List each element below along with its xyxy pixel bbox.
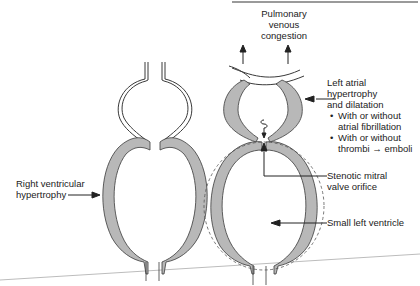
small-lv-label: Small left ventricle	[327, 217, 404, 228]
label-line: congestion	[244, 30, 324, 41]
bullet-line: With or without	[338, 110, 412, 121]
bullet-line: atrial fibrillation	[338, 121, 412, 132]
label-line: hypertrophy	[16, 189, 85, 200]
mitral-stenosis-diagram: Pulmonary venous congestion Left atrial …	[0, 0, 420, 286]
label-line: and dilatation	[327, 99, 384, 110]
label-line: valve orifice	[327, 181, 387, 192]
label-line: Stenotic mitral	[327, 170, 387, 181]
stenotic-mitral-label: Stenotic mitral valve orifice	[327, 170, 387, 192]
label-line: venous	[244, 19, 324, 30]
right-atrium	[118, 62, 192, 142]
small-lv-pointer	[271, 220, 327, 226]
rv-hypertrophy-label: Right ventricular hypertrophy	[16, 178, 85, 200]
label-line: Left atrial	[327, 77, 384, 88]
left-atrial-label: Left atrial hypertrophy and dilatation	[327, 77, 384, 110]
mitral-jet-icon	[261, 120, 267, 138]
label-line: hypertrophy	[327, 88, 384, 99]
right-ventricle	[103, 138, 207, 281]
left-atrial-bullets: With or without atrial fibrillation With…	[330, 110, 412, 154]
bullet-item: With or without thrombi → emboli	[330, 132, 412, 154]
bullet-line: thrombi → emboli	[338, 143, 412, 154]
bullet-line: With or without	[338, 132, 412, 143]
pulmonary-congestion-label: Pulmonary venous congestion	[244, 8, 324, 41]
pulmonary-arrows	[240, 45, 291, 64]
label-line: Right ventricular	[16, 178, 85, 189]
label-line: Pulmonary	[244, 8, 324, 19]
label-line: Small left ventricle	[327, 217, 404, 228]
bullet-item: With or without atrial fibrillation	[330, 110, 412, 132]
baseline	[0, 254, 420, 280]
